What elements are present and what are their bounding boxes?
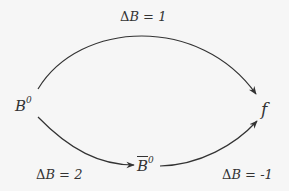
edge-B0-to-f [38, 36, 256, 94]
edge-label-delta-b-1: ΔB = 1 [120, 10, 166, 23]
label-eq: = [55, 167, 74, 182]
label-var: B [231, 167, 241, 182]
node-superscript: 0 [26, 95, 32, 105]
node-base: f [261, 99, 267, 119]
label-value: 1 [158, 9, 166, 24]
label-var: B [129, 9, 139, 24]
label-var: B [45, 167, 55, 182]
node-base: B [15, 97, 26, 115]
edge-label-delta-b-2: ΔB = 2 [36, 168, 82, 181]
edge-B0bar-to-f [160, 121, 257, 166]
label-value: -1 [260, 167, 273, 182]
label-eq: = [241, 167, 260, 182]
delta-symbol: Δ [222, 167, 231, 182]
edge-label-delta-b-minus-1: ΔB = -1 [222, 168, 273, 181]
node-b0-bar: B0 [137, 158, 154, 174]
node-base-overlined: B [137, 157, 148, 175]
node-superscript: 0 [148, 155, 154, 165]
delta-symbol: Δ [120, 9, 129, 24]
node-b0: B0 [15, 98, 32, 114]
node-f: f [261, 101, 267, 118]
edge-B0-to-B0bar [38, 117, 134, 165]
delta-symbol: Δ [36, 167, 45, 182]
label-eq: = [139, 9, 158, 24]
label-value: 2 [74, 167, 82, 182]
